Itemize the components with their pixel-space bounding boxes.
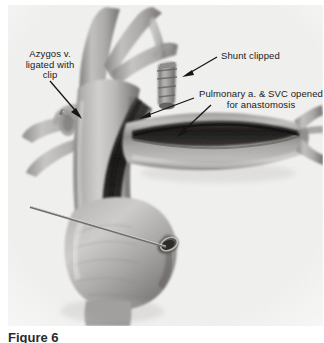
annotation-shunt-clipped: Shunt clipped [221,51,323,62]
figure-container: Azygos v. ligated with clip Shunt clippe… [0,0,324,343]
figure-caption-text: Figure 6 [8,331,208,343]
annotation-pulmonary-svc: Pulmonary a. & SVC opened for anastomosi… [194,89,323,110]
figure-caption: Figure 6 [8,331,208,343]
illustration-plate: Azygos v. ligated with clip Shunt clippe… [8,5,323,326]
annotation-azygos: Azygos v. ligated with clip [14,49,86,81]
